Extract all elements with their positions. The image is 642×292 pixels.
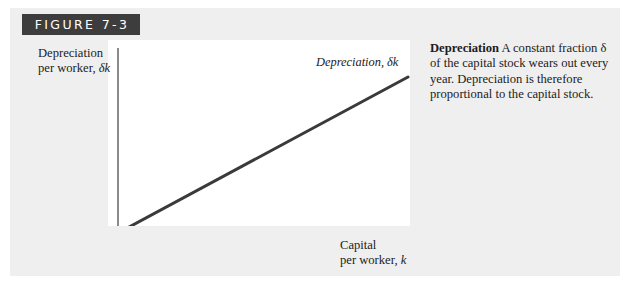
depreciation-curve-label: Depreciation, δk	[316, 55, 398, 70]
y-axis-title: Depreciation per worker, δk	[38, 46, 110, 75]
y-axis-title-line1: Depreciation	[38, 46, 103, 60]
x-axis-title-line2: per worker, k	[340, 253, 406, 267]
figure-caption-lead: Depreciation	[430, 41, 499, 55]
depreciation-line	[118, 77, 408, 226]
figure-number-label: FIGURE 7-3	[33, 17, 130, 32]
y-axis-title-line2: per worker, δk	[38, 61, 110, 75]
figure-number-header: FIGURE 7-3	[22, 14, 140, 35]
x-axis-title: Capital per worker, k	[340, 238, 406, 267]
figure-caption: Depreciation A constant fraction δ of th…	[430, 41, 610, 103]
x-axis-title-line1: Capital	[340, 238, 376, 252]
